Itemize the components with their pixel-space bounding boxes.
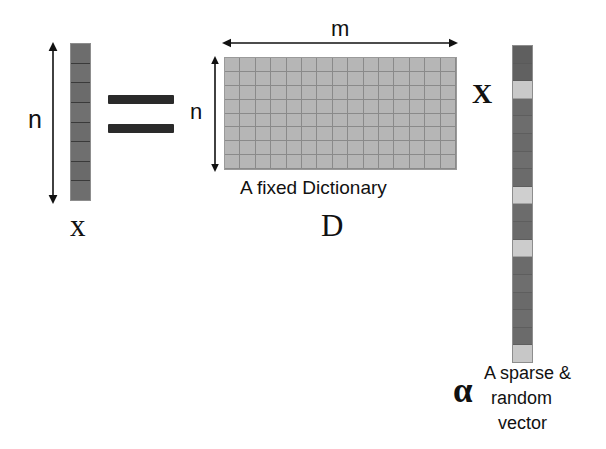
matrix-cell xyxy=(333,127,348,141)
matrix-cell xyxy=(256,58,271,72)
vector-cell xyxy=(71,83,90,103)
matrix-cell xyxy=(256,100,271,114)
left-vector-x xyxy=(70,43,91,201)
vector-cell xyxy=(513,99,532,117)
matrix-cell xyxy=(317,100,332,114)
matrix-cell xyxy=(379,86,394,100)
matrix-cell xyxy=(394,72,409,86)
matrix-cell xyxy=(271,86,286,100)
matrix-cell xyxy=(271,141,286,155)
vector-cell xyxy=(513,116,532,134)
right-vector-alpha xyxy=(512,45,533,363)
matrix-cell xyxy=(379,72,394,86)
matrix-cell xyxy=(394,58,409,72)
matrix-cell xyxy=(302,155,317,169)
vector-cell xyxy=(71,64,90,84)
matrix-cell xyxy=(302,72,317,86)
matrix-cell xyxy=(410,100,425,114)
matrix-cell xyxy=(287,155,302,169)
matrix-cell xyxy=(425,72,440,86)
matrix-cell xyxy=(348,155,363,169)
matrix-cell xyxy=(394,155,409,169)
matrix-cell xyxy=(425,155,440,169)
matrix-cell xyxy=(225,86,240,100)
matrix-cell xyxy=(364,100,379,114)
matrix-cell xyxy=(317,114,332,128)
matrix-cell xyxy=(364,155,379,169)
matrix-cell xyxy=(240,72,255,86)
matrix-cell xyxy=(425,141,440,155)
matrix-cell xyxy=(333,114,348,128)
matrix-cell xyxy=(317,72,332,86)
dictionary-width-arrow xyxy=(222,37,458,49)
matrix-cell xyxy=(441,127,456,141)
matrix-cell xyxy=(379,141,394,155)
vector-cell xyxy=(71,103,90,123)
matrix-cell xyxy=(441,86,456,100)
matrix-cell xyxy=(271,72,286,86)
matrix-cell xyxy=(425,127,440,141)
multiply-sign: X xyxy=(472,79,492,109)
matrix-cell xyxy=(287,127,302,141)
matrix-cell xyxy=(317,58,332,72)
matrix-cell xyxy=(364,127,379,141)
matrix-cell xyxy=(240,127,255,141)
vector-cell xyxy=(513,204,532,222)
vector-cell xyxy=(513,187,532,205)
matrix-cell xyxy=(364,58,379,72)
matrix-cell xyxy=(287,141,302,155)
matrix-cell xyxy=(364,72,379,86)
dictionary-caption: A fixed Dictionary xyxy=(240,178,387,199)
vector-cell xyxy=(513,275,532,293)
vector-cell xyxy=(71,44,90,64)
matrix-cell xyxy=(441,155,456,169)
matrix-cell xyxy=(410,155,425,169)
right-vector-caption-line-1: A sparse & xyxy=(484,364,571,383)
matrix-cell xyxy=(394,86,409,100)
matrix-cell xyxy=(410,114,425,128)
vector-cell xyxy=(513,152,532,170)
matrix-cell xyxy=(240,86,255,100)
matrix-cell xyxy=(333,141,348,155)
matrix-cell xyxy=(410,141,425,155)
matrix-cell xyxy=(240,100,255,114)
right-vector-caption-line-2: random xyxy=(491,389,552,408)
matrix-cell xyxy=(333,58,348,72)
matrix-cell xyxy=(333,100,348,114)
matrix-cell xyxy=(379,100,394,114)
matrix-cell xyxy=(364,114,379,128)
matrix-cell xyxy=(256,114,271,128)
matrix-cell xyxy=(441,114,456,128)
matrix-cell xyxy=(317,127,332,141)
vector-cell xyxy=(513,293,532,311)
matrix-cell xyxy=(364,141,379,155)
vector-cell xyxy=(71,181,90,200)
diagram-canvas: n x m n xyxy=(0,0,606,449)
matrix-cell xyxy=(348,100,363,114)
left-vector-label: x xyxy=(70,209,86,242)
matrix-cell xyxy=(302,100,317,114)
dictionary-label: D xyxy=(321,209,343,242)
matrix-cell xyxy=(225,58,240,72)
matrix-cell xyxy=(317,86,332,100)
matrix-cell xyxy=(240,155,255,169)
matrix-cell xyxy=(441,100,456,114)
matrix-cell xyxy=(441,72,456,86)
vector-cell xyxy=(513,64,532,82)
matrix-cell xyxy=(333,155,348,169)
matrix-cell xyxy=(394,114,409,128)
matrix-cell xyxy=(348,141,363,155)
matrix-cell xyxy=(425,114,440,128)
dictionary-rows-label: n xyxy=(190,100,202,124)
matrix-cell xyxy=(271,114,286,128)
equals-bar-top xyxy=(108,95,174,104)
matrix-cell xyxy=(271,127,286,141)
matrix-cell xyxy=(348,58,363,72)
matrix-cell xyxy=(348,114,363,128)
matrix-cell xyxy=(302,114,317,128)
matrix-cell xyxy=(317,141,332,155)
matrix-cell xyxy=(441,58,456,72)
matrix-cell xyxy=(271,155,286,169)
matrix-cell xyxy=(410,86,425,100)
matrix-cell xyxy=(348,72,363,86)
